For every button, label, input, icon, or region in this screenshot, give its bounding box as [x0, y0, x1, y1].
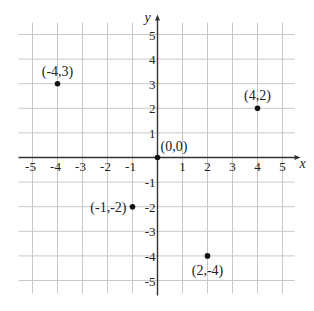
y-axis-label: y [143, 10, 152, 25]
data-point [205, 253, 211, 259]
point-label: (-1,-2) [90, 200, 126, 216]
y-tick-label: -5 [145, 274, 156, 289]
y-tick-label: -3 [145, 224, 156, 239]
data-point [155, 155, 161, 161]
data-point [130, 204, 136, 210]
x-tick-label: 5 [279, 159, 286, 174]
coordinate-plane: xy-5-4-3-2-112345-5-4-3-2-112345 (-4,3)(… [0, 0, 314, 311]
x-tick-label: -2 [100, 159, 111, 174]
data-point [55, 81, 61, 87]
x-axis-label: x [299, 156, 307, 171]
y-tick-label: 1 [149, 126, 156, 141]
data-point [255, 106, 261, 112]
y-tick-label: 5 [149, 28, 156, 43]
plot-svg: xy-5-4-3-2-112345-5-4-3-2-112345 (-4,3)(… [0, 0, 314, 311]
y-tick-label: 3 [149, 77, 156, 92]
x-tick-label: -4 [50, 159, 61, 174]
y-tick-label: -4 [145, 249, 156, 264]
y-tick-label: 2 [149, 101, 156, 116]
point-label: (0,0) [161, 139, 188, 155]
x-tick-label: 1 [179, 159, 186, 174]
x-tick-label: 3 [229, 159, 236, 174]
x-tick-label: 2 [204, 159, 211, 174]
point-label: (2,-4) [192, 263, 224, 279]
x-tick-label: -3 [75, 159, 86, 174]
x-tick-label: -1 [125, 159, 136, 174]
point-label: (4,2) [244, 88, 271, 104]
point-label: (-4,3) [42, 64, 74, 80]
y-tick-label: -1 [145, 175, 156, 190]
axes [19, 15, 301, 296]
x-tick-label: -5 [25, 159, 36, 174]
y-tick-label: 4 [149, 52, 156, 67]
y-tick-label: -2 [145, 200, 156, 215]
y-axis-arrow-icon [155, 15, 160, 21]
x-tick-label: 4 [254, 159, 261, 174]
